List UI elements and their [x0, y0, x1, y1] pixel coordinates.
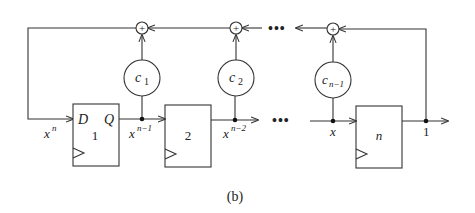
svg-text:1: 1 — [144, 76, 149, 87]
label-xn-2: x n−2 — [222, 123, 247, 141]
plus-icon: + — [139, 22, 145, 34]
svg-text:2: 2 — [238, 76, 243, 87]
svg-text:Q: Q — [104, 112, 114, 127]
label-xn-1: x n−1 — [128, 123, 152, 141]
label-xn: x n — [43, 123, 57, 141]
svg-text:c: c — [322, 72, 328, 87]
plus-icon: + — [233, 22, 239, 34]
coefficient-c1: c 1 — [124, 60, 160, 96]
figure-caption: (b) — [227, 189, 244, 205]
adder-1: + — [136, 22, 148, 34]
svg-text:x: x — [128, 126, 135, 141]
svg-text:c: c — [229, 70, 236, 85]
coefficient-c2: c 2 — [218, 60, 254, 96]
adder-n-1: + — [327, 23, 339, 35]
label-x: x — [329, 124, 336, 139]
ellipsis-top: ••• — [268, 21, 286, 36]
junction-dot — [140, 117, 145, 122]
junction-dot — [424, 119, 429, 124]
svg-text:2: 2 — [185, 128, 192, 143]
svg-text:n−2: n−2 — [231, 123, 247, 133]
svg-text:c: c — [135, 70, 142, 85]
junction-dot — [233, 118, 238, 123]
flipflop-2: 2 — [165, 105, 211, 167]
label-one: 1 — [423, 124, 430, 139]
svg-text:x: x — [222, 126, 229, 141]
flipflop-1: D Q 1 — [73, 104, 119, 166]
svg-text:D: D — [77, 112, 88, 127]
lfsr-diagram: ••• + + + c 1 c 2 c n−1 D Q 1 — [0, 0, 475, 213]
junction-dot — [331, 119, 336, 124]
svg-text:n: n — [52, 123, 57, 133]
svg-text:n: n — [376, 128, 383, 143]
plus-icon: + — [330, 23, 336, 35]
coefficient-cn-1: c n−1 — [315, 62, 351, 98]
ellipsis-mid: ••• — [272, 113, 290, 128]
svg-text:n−1: n−1 — [137, 123, 152, 133]
flipflop-n: n — [356, 106, 402, 168]
svg-text:1: 1 — [92, 128, 99, 143]
svg-text:n−1: n−1 — [329, 79, 344, 89]
adder-2: + — [230, 22, 242, 34]
svg-text:x: x — [43, 126, 50, 141]
